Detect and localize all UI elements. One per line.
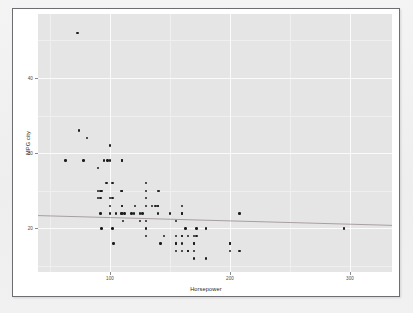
data-point [181,205,183,207]
data-point [111,227,113,229]
x-tick-mark [350,272,351,275]
data-point [205,257,207,259]
data-point [100,227,102,229]
data-point [145,205,147,207]
data-point [205,227,207,229]
data-point [86,137,88,139]
data-point [122,220,124,222]
data-point [123,212,125,214]
data-point [130,212,132,214]
plot-panel [38,14,392,272]
x-tick-mark [230,272,231,275]
figure-card: 203040 100200300 Horsepower MPG city [12,8,400,297]
gridline-h-minor [38,266,392,267]
data-point [175,242,177,244]
data-point [181,250,183,252]
data-point [76,32,78,34]
gridline-v-minor [170,14,171,272]
data-point [121,205,123,207]
gridline-h-major [38,78,392,79]
data-point [111,182,113,184]
data-point [195,235,197,237]
gridline-h-minor [38,116,392,117]
data-point [187,250,189,252]
data-point [181,235,183,237]
gridline-v-minor [50,14,51,272]
data-point [109,212,111,214]
x-tick-label: 200 [219,276,241,281]
data-point [169,212,171,214]
data-point [112,242,114,244]
data-point [97,197,99,199]
data-point [229,242,231,244]
data-point [145,182,147,184]
data-point [157,205,159,207]
data-point [163,235,165,237]
data-point [121,159,123,161]
data-point [181,242,183,244]
gridline-h-minor [38,40,392,41]
data-point [100,190,102,192]
data-point [159,242,161,244]
data-point [99,197,101,199]
data-point [238,250,240,252]
data-point [111,197,113,199]
regression-line [38,14,392,272]
y-tick-label: 40 [15,75,33,80]
data-point [193,250,195,252]
data-point [105,182,107,184]
data-point [151,205,153,207]
data-point [82,159,84,161]
y-tick-mark [35,153,38,154]
x-axis-title: Horsepower [13,286,399,292]
gridline-h-major [38,228,392,229]
data-point [78,129,80,131]
data-point [145,235,147,237]
x-tick-mark [110,272,111,275]
gridline-v-major [350,14,351,272]
data-point [238,212,240,214]
data-point [133,212,135,214]
data-point [139,220,141,222]
data-point [106,159,108,161]
data-point [175,235,177,237]
gridline-h-major [38,153,392,154]
data-point [134,205,136,207]
gridline-h-minor [38,191,392,192]
data-point [187,235,189,237]
data-point [120,190,122,192]
y-tick-mark [35,78,38,79]
data-point [141,212,143,214]
y-tick-mark [35,228,38,229]
data-point [193,242,195,244]
data-point [157,212,159,214]
data-point [109,144,111,146]
data-point [193,257,195,259]
data-point [97,167,99,169]
x-tick-label: 300 [339,276,361,281]
x-tick-label: 100 [99,276,121,281]
gridline-v-major [230,14,231,272]
data-point [145,227,147,229]
data-point [145,220,147,222]
plot-area: 203040 100200300 Horsepower MPG city [13,9,399,296]
data-point [99,212,101,214]
data-point [175,220,177,222]
data-point [181,212,183,214]
y-tick-label: 20 [15,226,33,231]
data-point [184,227,186,229]
data-point [145,197,147,199]
data-point [343,227,345,229]
data-point [175,250,177,252]
gridline-v-minor [290,14,291,272]
data-point [195,227,197,229]
data-point [139,212,141,214]
data-point [109,159,111,161]
gridline-v-major [110,14,111,272]
data-point [103,159,105,161]
y-axis-title: MPG city [25,131,31,155]
data-point [64,159,66,161]
data-point [115,212,117,214]
